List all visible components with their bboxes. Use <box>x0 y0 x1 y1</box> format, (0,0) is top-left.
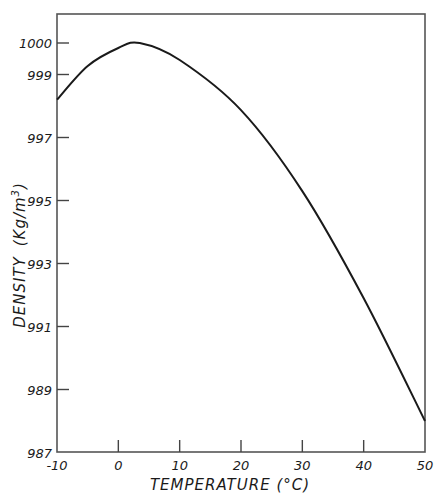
density-curve <box>57 42 425 421</box>
y-tick-label: 995 <box>27 194 52 209</box>
y-axis-title-unit: (Kg/m <box>11 196 29 246</box>
y-tick-label: 991 <box>27 320 52 335</box>
y-tick-label: 993 <box>27 257 52 272</box>
y-axis-title-sup: 3 <box>10 189 21 196</box>
x-tick-label: 50 <box>417 458 434 473</box>
x-axis-ticks: -1001020304050 <box>46 440 433 473</box>
x-tick-label: 20 <box>233 458 250 473</box>
x-tick-label: -10 <box>46 458 67 473</box>
y-axis-title-main: DENSITY <box>11 255 29 327</box>
y-axis-title-close: ) <box>11 182 29 190</box>
y-tick-label: 1000 <box>19 36 52 51</box>
y-tick-label: 997 <box>27 131 53 146</box>
y-axis-ticks: 9879899919939959979991000 <box>19 36 69 461</box>
x-tick-label: 0 <box>114 458 122 473</box>
plot-frame <box>57 14 425 452</box>
x-tick-label: 40 <box>355 458 372 473</box>
y-tick-label: 999 <box>27 68 52 83</box>
x-tick-label: 30 <box>294 458 311 473</box>
x-tick-label: 10 <box>171 458 188 473</box>
density-temperature-chart: 9879899919939959979991000 -1001020304050… <box>0 0 442 502</box>
y-tick-label: 989 <box>27 383 52 398</box>
x-axis-title: TEMPERATURE (°C) <box>150 476 310 494</box>
y-axis-title: DENSITY(Kg/m3) <box>10 182 29 328</box>
